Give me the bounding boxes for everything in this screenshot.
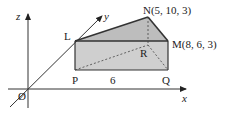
origin-label: Ø [18, 90, 26, 102]
point-p: P [72, 74, 78, 86]
point-n: N(5, 10, 3) [143, 4, 192, 17]
point-r: R [140, 47, 148, 59]
front-face [75, 41, 168, 70]
point-m: M(8, 6, 3) [172, 38, 217, 51]
prism-diagram: z y x Ø L P Q R N(5, 10, 3) M(8, 6, 3) 6 [0, 0, 234, 116]
point-q: Q [162, 74, 170, 86]
point-l: L [64, 30, 71, 42]
y-label: y [103, 10, 109, 22]
dimension-pq: 6 [110, 74, 116, 86]
z-label: z [15, 10, 21, 22]
x-label: x [181, 92, 187, 104]
